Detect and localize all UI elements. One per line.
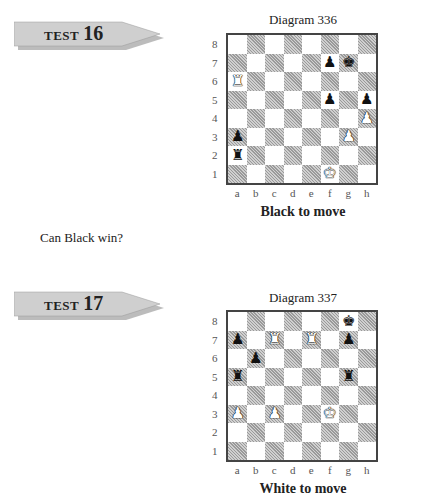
white-king-icon: ♚: [323, 166, 336, 181]
square-b8: [247, 35, 266, 54]
square-a5: [228, 91, 247, 110]
square-c4: [265, 386, 284, 405]
square-a2: [228, 423, 247, 442]
white-rook-icon: ♜: [231, 74, 244, 89]
black-pawn-icon: ♟: [342, 332, 355, 347]
square-h8: [358, 312, 377, 331]
square-a7: [228, 54, 247, 73]
square-a1: [228, 165, 247, 184]
square-e2: [302, 423, 321, 442]
square-e3: [302, 128, 321, 147]
file-label: g: [339, 187, 358, 199]
square-c3: [265, 128, 284, 147]
square-d7: [284, 54, 303, 73]
square-h2: [358, 146, 377, 165]
black-king-icon: ♚: [342, 314, 355, 329]
square-b3: [247, 128, 266, 147]
square-e5: [302, 368, 321, 387]
rank-label: 5: [212, 368, 218, 387]
square-f2: [321, 146, 340, 165]
file-labels-336: abcdefgh: [228, 187, 376, 199]
square-e4: [302, 386, 321, 405]
file-label: d: [284, 464, 303, 476]
white-pawn-icon: ♟: [360, 111, 373, 126]
file-label: d: [284, 187, 303, 199]
square-c5: [265, 368, 284, 387]
square-f1: ♚: [321, 165, 340, 184]
square-b6: [247, 72, 266, 91]
rank-label: 7: [212, 54, 218, 73]
square-g5: [339, 91, 358, 110]
square-e1: [302, 442, 321, 461]
square-e8: [302, 35, 321, 54]
square-b4: [247, 109, 266, 128]
white-rook-icon: ♜: [268, 332, 281, 347]
square-a8: [228, 35, 247, 54]
square-g3: [339, 405, 358, 424]
square-h6: [358, 72, 377, 91]
square-d6: [284, 72, 303, 91]
file-label: f: [321, 464, 340, 476]
black-rook-icon: ♜: [342, 369, 355, 384]
square-d4: [284, 109, 303, 128]
square-c6: [265, 72, 284, 91]
square-h7: [358, 331, 377, 350]
square-g4: [339, 109, 358, 128]
square-d1: [284, 165, 303, 184]
square-b1: [247, 442, 266, 461]
square-g6: [339, 349, 358, 368]
square-b5: [247, 91, 266, 110]
square-h8: [358, 35, 377, 54]
rank-label: 3: [212, 128, 218, 147]
black-pawn-icon: ♟: [231, 129, 244, 144]
square-d4: [284, 386, 303, 405]
square-c8: [265, 35, 284, 54]
square-b7: [247, 54, 266, 73]
square-h1: [358, 442, 377, 461]
black-pawn-icon: ♟: [249, 351, 262, 366]
black-pawn-icon: ♟: [231, 332, 244, 347]
to-move-337: White to move: [226, 481, 380, 497]
square-b1: [247, 165, 266, 184]
square-h5: [358, 368, 377, 387]
rank-label: 1: [212, 442, 218, 461]
to-move-336: Black to move: [226, 204, 380, 220]
rank-label: 2: [212, 423, 218, 442]
square-a2: ♜: [228, 146, 247, 165]
square-f6: [321, 72, 340, 91]
square-f7: ♟: [321, 54, 340, 73]
square-b7: [247, 331, 266, 350]
square-d8: [284, 35, 303, 54]
square-e3: [302, 405, 321, 424]
file-label: h: [358, 187, 377, 199]
square-c6: [265, 349, 284, 368]
square-a6: ♜: [228, 72, 247, 91]
square-e6: [302, 349, 321, 368]
black-rook-icon: ♜: [231, 369, 244, 384]
square-b2: [247, 146, 266, 165]
square-h5: ♟: [358, 91, 377, 110]
square-c1: [265, 442, 284, 461]
black-pawn-icon: ♟: [360, 92, 373, 107]
square-g5: ♜: [339, 368, 358, 387]
square-f5: [321, 368, 340, 387]
square-e1: [302, 165, 321, 184]
banner-text: TEST17: [44, 292, 103, 315]
rank-label: 1: [212, 165, 218, 184]
rank-label: 4: [212, 109, 218, 128]
square-e2: [302, 146, 321, 165]
square-f3: ♚: [321, 405, 340, 424]
rank-label: 5: [212, 91, 218, 110]
rank-label: 8: [212, 312, 218, 331]
rank-labels-336: 87654321: [212, 35, 218, 183]
square-g2: [339, 423, 358, 442]
square-f1: [321, 442, 340, 461]
square-a1: [228, 442, 247, 461]
square-h3: [358, 128, 377, 147]
chess-board-337: ♚♟♜♜♟♟♜♜♟♟♚: [226, 310, 378, 462]
square-g3: ♟: [339, 128, 358, 147]
square-d8: [284, 312, 303, 331]
black-pawn-icon: ♟: [323, 55, 336, 70]
square-f3: [321, 128, 340, 147]
square-f4: [321, 386, 340, 405]
